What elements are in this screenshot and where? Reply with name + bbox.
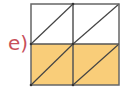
vertex-dot (72, 84, 75, 87)
vertex-dot (30, 43, 33, 46)
vertex-dot (72, 43, 75, 46)
vertex-dot (30, 84, 33, 87)
vertex-dot (72, 3, 75, 6)
shaded-grid-diagram (0, 0, 121, 91)
